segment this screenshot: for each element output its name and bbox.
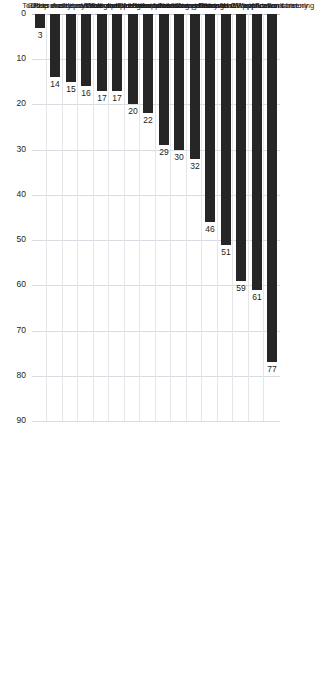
- category-gridline: [62, 14, 63, 421]
- bar-value-label: 20: [128, 107, 137, 116]
- bar-value-label: 32: [190, 162, 199, 171]
- bar-row: 51: [221, 14, 231, 421]
- bar-value-label: 46: [206, 225, 215, 234]
- bar[interactable]: [112, 14, 122, 91]
- value-tick-label: 40: [17, 190, 26, 199]
- category-gridline: [93, 14, 94, 421]
- bar-row: 30: [174, 14, 184, 421]
- category-gridline: [155, 14, 156, 421]
- category-gridline: [47, 14, 48, 421]
- bar-row: 17: [97, 14, 107, 421]
- value-tick-label: 80: [17, 371, 26, 380]
- bar[interactable]: [81, 14, 91, 86]
- value-tick-label: 10: [17, 54, 26, 63]
- category-gridline: [233, 14, 234, 421]
- bar[interactable]: [143, 14, 153, 113]
- bar-value-label: 77: [268, 365, 277, 374]
- value-tick-label: 20: [17, 99, 26, 108]
- category-gridline: [217, 14, 218, 421]
- bar-row: 22: [143, 14, 153, 421]
- bar-row: 46: [205, 14, 215, 421]
- category-gridline: [248, 14, 249, 421]
- bar[interactable]: [35, 14, 45, 28]
- value-gridline: [32, 421, 280, 422]
- value-tick-label: 30: [17, 145, 26, 154]
- bar[interactable]: [205, 14, 215, 222]
- bar-row: 16: [81, 14, 91, 421]
- plot-area: 7761595146323029222017171615143: [32, 14, 280, 421]
- bar-row: 61: [252, 14, 262, 421]
- category-gridline: [171, 14, 172, 421]
- bar[interactable]: [66, 14, 76, 82]
- category-gridline: [264, 14, 265, 421]
- category-gridline: [78, 14, 79, 421]
- category-gridline: [140, 14, 141, 421]
- bar-value-label: 16: [82, 89, 91, 98]
- category-gridline: [186, 14, 187, 421]
- bar[interactable]: [159, 14, 169, 145]
- bar-value-label: 61: [252, 293, 261, 302]
- bar[interactable]: [128, 14, 138, 104]
- bar-row: 3: [35, 14, 45, 421]
- bar[interactable]: [174, 14, 184, 150]
- bar-value-label: 17: [97, 94, 106, 103]
- category-gridline: [124, 14, 125, 421]
- bar[interactable]: [97, 14, 107, 91]
- bar-row: 14: [50, 14, 60, 421]
- bar[interactable]: [252, 14, 262, 290]
- value-tick-label: 90: [17, 416, 26, 425]
- bar-value-label: 17: [113, 94, 122, 103]
- bar-value-label: 22: [144, 116, 153, 125]
- value-tick-label: 50: [17, 235, 26, 244]
- bar-value-label: 3: [37, 31, 42, 40]
- bar-value-label: 51: [221, 248, 230, 257]
- category-gridline: [109, 14, 110, 421]
- bar-value-label: 29: [159, 148, 168, 157]
- category-gridline: [202, 14, 203, 421]
- bar-row: 20: [128, 14, 138, 421]
- chart-rotation-wrapper: 7761595146323029222017171615143 01020304…: [0, 0, 292, 681]
- bar-row: 32: [190, 14, 200, 421]
- bar-value-label: 15: [66, 85, 75, 94]
- bar[interactable]: [236, 14, 246, 281]
- value-tick-label: 70: [17, 326, 26, 335]
- bar-value-label: 30: [175, 153, 184, 162]
- bar[interactable]: [221, 14, 231, 245]
- value-tick-label: 60: [17, 280, 26, 289]
- bar-row: 29: [159, 14, 169, 421]
- bar[interactable]: [50, 14, 60, 77]
- category-label: Other: [30, 2, 49, 10]
- value-tick-label: 0: [21, 9, 26, 18]
- bar-value-label: 14: [51, 80, 60, 89]
- bar[interactable]: [267, 14, 277, 362]
- bar-value-label: 59: [237, 284, 246, 293]
- bar-chart-figure: 7761595146323029222017171615143 01020304…: [0, 0, 292, 681]
- bar[interactable]: [190, 14, 200, 159]
- bar-row: 17: [112, 14, 122, 421]
- bar-row: 15: [66, 14, 76, 421]
- bar-row: 59: [236, 14, 246, 421]
- bar-row: 77: [267, 14, 277, 421]
